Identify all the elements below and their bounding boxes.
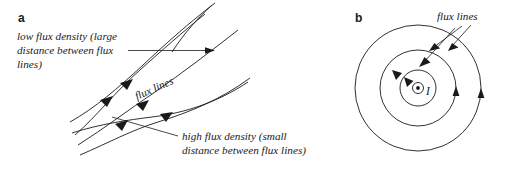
figure-svg: a low flux density (large distance betwe… <box>0 0 511 170</box>
panel-b-letter: b <box>355 11 362 25</box>
high-flux-density-label-line1: high flux density (small <box>182 130 287 143</box>
flux-circle-middle-arrow-2 <box>392 70 402 80</box>
low-flux-density-label-line3: lines) <box>17 58 42 71</box>
figure-container: a low flux density (large distance betwe… <box>0 0 511 170</box>
high-flux-density-label-line2: distance between flux lines) <box>182 144 306 157</box>
low-flux-density-leader-arrow <box>128 47 215 54</box>
flux-line-a-3-arrow <box>100 96 113 107</box>
flux-circle-inner-arrow <box>404 77 414 87</box>
panel-a-group: a low flux density (large distance betwe… <box>17 3 306 157</box>
flux-circle-outer-arrow <box>478 88 485 98</box>
flux-circle-middle-arrow <box>453 86 460 96</box>
flux-line-a-2-arrow <box>120 79 133 90</box>
flux-lines-label-a: flux lines <box>133 74 176 102</box>
low-flux-density-label-line2: distance between flux <box>17 44 113 56</box>
flux-lines-label-b: flux lines <box>437 10 478 22</box>
flux-line-a-1 <box>172 5 212 52</box>
panel-b-group: b I flux lines <box>355 10 484 151</box>
current-symbol-dot <box>416 86 420 90</box>
flux-lines-leader-outer <box>448 25 471 51</box>
panel-a-letter: a <box>18 11 25 25</box>
current-label: I <box>425 85 431 97</box>
low-flux-density-label-line1: low flux density (large <box>17 30 117 43</box>
flux-lines-leader-inner <box>419 28 455 67</box>
